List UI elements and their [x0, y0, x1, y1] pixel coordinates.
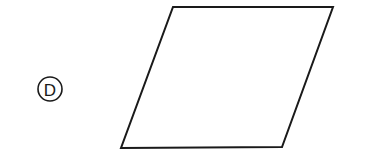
figure-svg: D — [0, 0, 368, 160]
figure-canvas: D — [0, 0, 368, 160]
option-label-d: D — [38, 77, 62, 101]
option-letter: D — [44, 81, 56, 100]
parallelogram-shape — [121, 7, 333, 148]
